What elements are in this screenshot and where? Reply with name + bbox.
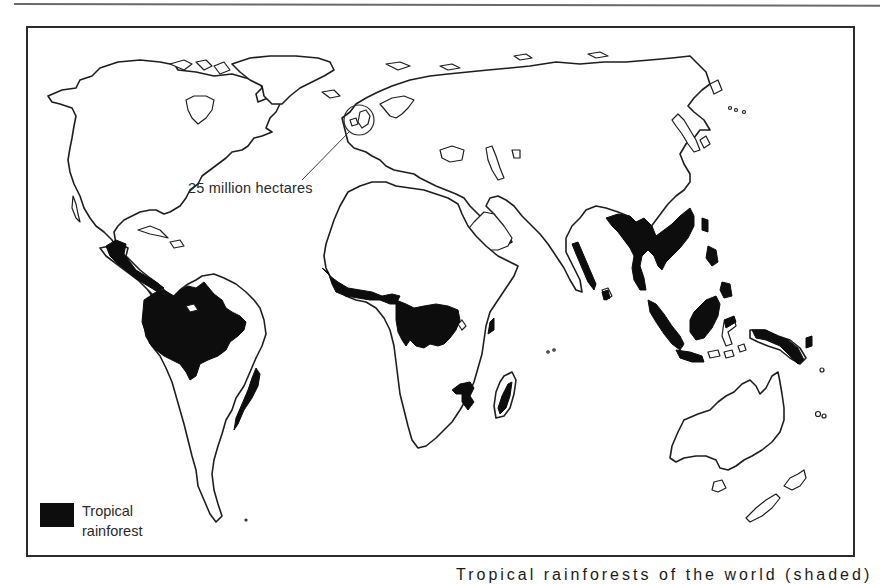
area-annotation-label: 25 million hectares xyxy=(188,180,313,196)
rainforest-sumatra xyxy=(648,300,684,350)
tasmania-outline xyxy=(712,480,726,492)
rainforest-east-africa xyxy=(488,318,494,334)
australia-outline xyxy=(670,372,784,492)
rainforest-philippines xyxy=(706,246,718,266)
figure-caption: Tropical rainforests of the world (shade… xyxy=(456,566,872,584)
annotation-leader-line xyxy=(302,132,349,180)
legend-label-rainforest: Tropical rainforest xyxy=(82,501,172,541)
rainforest-borneo xyxy=(690,296,720,340)
legend-swatch-rainforest xyxy=(40,503,74,527)
new-zealand-outline xyxy=(746,470,806,522)
map-legend: Tropical rainforest xyxy=(40,501,172,541)
rainforest-java xyxy=(676,350,704,362)
rainforest-sri-lanka xyxy=(602,290,610,300)
